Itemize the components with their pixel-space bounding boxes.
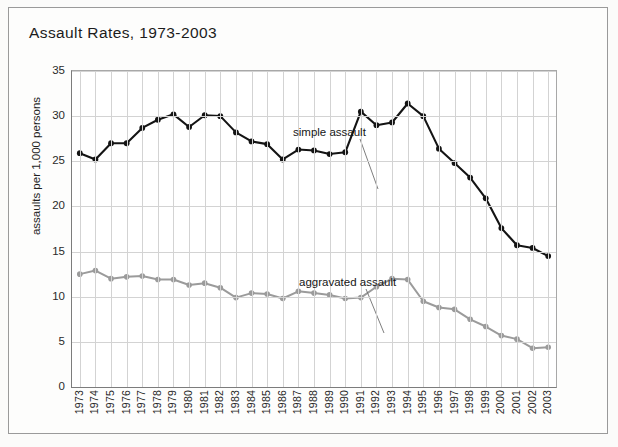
gridline-vertical (470, 71, 471, 387)
x-tick-label: 1996 (432, 390, 444, 414)
page-title: Assault Rates, 1973-2003 (29, 24, 217, 42)
gridline-vertical (330, 71, 331, 387)
gridline-vertical (267, 71, 268, 387)
x-tick-label: 1987 (291, 390, 303, 414)
x-tick-label: 2003 (541, 390, 553, 414)
x-tick-label: 1999 (479, 390, 491, 414)
gridline-vertical (283, 71, 284, 387)
y-tick-label: 15 (52, 245, 65, 257)
plot-area (71, 70, 557, 388)
x-tick-label: 1979 (166, 390, 178, 414)
gridline-vertical (439, 71, 440, 387)
x-axis-ticks: 1973197419751976197719781979198019811982… (71, 390, 555, 446)
annotation-leader-line (360, 139, 378, 189)
x-tick-label: 1974 (88, 390, 100, 414)
gridline-vertical (127, 71, 128, 387)
gridline-vertical (486, 71, 487, 387)
y-tick-label: 20 (52, 199, 65, 211)
x-tick-label: 1981 (198, 390, 210, 414)
gridline-vertical (548, 71, 549, 387)
x-tick-label: 1992 (369, 390, 381, 414)
gridline-vertical (189, 71, 190, 387)
gridline-vertical (158, 71, 159, 387)
gridline-vertical (205, 71, 206, 387)
x-tick-label: 1980 (182, 390, 194, 414)
series-annotation-aggravated-assault: aggravated assault (299, 276, 396, 288)
gridline-vertical (455, 71, 456, 387)
gridline-vertical (501, 71, 502, 387)
series-annotation-simple-assault: simple assault (293, 126, 366, 138)
annotation-leader-line (366, 289, 384, 333)
gridline-vertical (533, 71, 534, 387)
x-tick-label: 1982 (213, 390, 225, 414)
gridline-vertical (517, 71, 518, 387)
x-tick-label: 2000 (494, 390, 506, 414)
gridline-vertical (142, 71, 143, 387)
gridline-vertical (298, 71, 299, 387)
x-tick-label: 1977 (135, 390, 147, 414)
gridline-vertical (80, 71, 81, 387)
x-tick-label: 1989 (323, 390, 335, 414)
chart-figure-frame: Assault Rates, 1973-2003 05101520253035 … (8, 7, 608, 434)
y-tick-label: 10 (52, 290, 65, 302)
x-tick-label: 1985 (260, 390, 272, 414)
x-tick-label: 1995 (416, 390, 428, 414)
x-tick-label: 1997 (448, 390, 460, 414)
gridline-vertical (173, 71, 174, 387)
x-tick-label: 1975 (104, 390, 116, 414)
gridline-vertical (345, 71, 346, 387)
x-tick-label: 1990 (338, 390, 350, 414)
gridline-vertical (392, 71, 393, 387)
y-tick-label: 35 (52, 64, 65, 76)
x-tick-label: 1994 (401, 390, 413, 414)
x-tick-label: 1976 (120, 390, 132, 414)
y-tick-label: 0 (59, 380, 65, 392)
gridline-vertical (220, 71, 221, 387)
x-tick-label: 2001 (510, 390, 522, 414)
gridline-vertical (236, 71, 237, 387)
gridline-vertical (314, 71, 315, 387)
gridline-vertical (361, 71, 362, 387)
x-tick-label: 1983 (229, 390, 241, 414)
x-tick-label: 1984 (245, 390, 257, 414)
gridline-vertical (408, 71, 409, 387)
x-tick-label: 1988 (307, 390, 319, 414)
gridline-vertical (95, 71, 96, 387)
x-tick-label: 1998 (463, 390, 475, 414)
x-tick-label: 1973 (73, 390, 85, 414)
x-tick-label: 1978 (151, 390, 163, 414)
gridline-vertical (376, 71, 377, 387)
y-tick-label: 30 (52, 109, 65, 121)
x-tick-label: 2002 (526, 390, 538, 414)
x-tick-label: 1986 (276, 390, 288, 414)
gridline-vertical (111, 71, 112, 387)
y-axis-label: assaults per 1,000 persons (30, 76, 42, 256)
y-tick-label: 5 (59, 335, 65, 347)
gridline-vertical (423, 71, 424, 387)
y-tick-label: 25 (52, 154, 65, 166)
x-tick-label: 1993 (385, 390, 397, 414)
screenshot-page: Assault Rates, 1973-2003 05101520253035 … (0, 0, 618, 447)
y-axis-ticks: 05101520253035 (45, 70, 65, 386)
x-tick-label: 1991 (354, 390, 366, 414)
gridline-vertical (252, 71, 253, 387)
